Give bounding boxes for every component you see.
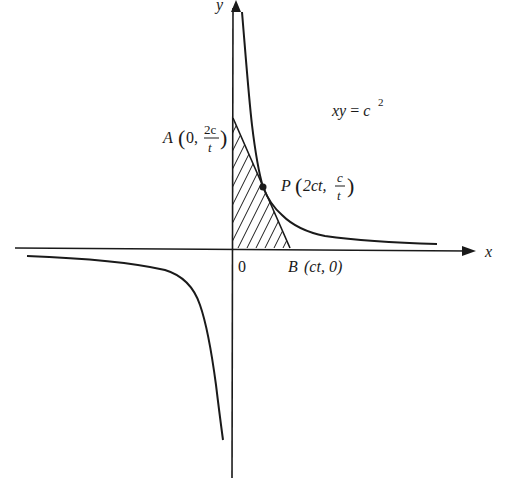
point-a-name: A (162, 129, 173, 146)
point-a-numerator: 2c (204, 122, 217, 137)
point-b-name: B (288, 258, 298, 275)
origin-label: 0 (238, 258, 246, 275)
point-a-label: A ( 0, 2c t ) (162, 122, 227, 155)
hatch-line (102, 110, 172, 250)
point-p-numerator: c (337, 170, 343, 185)
point-p-label: P ( 2ct, c t ) (280, 170, 354, 203)
point-p-close-paren: ) (347, 173, 354, 198)
x-axis-label: x (484, 243, 492, 260)
hatch-line (219, 110, 289, 250)
equation-lhs: xy (331, 102, 347, 120)
point-b-label: B (ct, 0) (288, 258, 342, 276)
hyperbola-upper-branch (242, 12, 437, 244)
point-p-name: P (280, 177, 291, 194)
point-a-close-paren: ) (220, 125, 227, 150)
equation-equals: = (346, 102, 363, 119)
point-b-coords: (ct, 0) (304, 258, 342, 276)
y-axis (232, 8, 233, 478)
y-axis-label: y (214, 0, 224, 14)
point-a-open-paren: ( (178, 125, 185, 150)
point-p-marker (260, 184, 267, 191)
equation-exponent: 2 (378, 96, 384, 108)
point-a-x: 0, (186, 129, 198, 146)
svg-text:xy = c: xy = c (331, 102, 370, 120)
equation-label: xy = c 2 (331, 96, 384, 120)
point-p-x: 2ct, (303, 177, 327, 194)
hatch-line (93, 110, 163, 250)
point-a-denominator: t (208, 140, 212, 155)
point-p-open-paren: ( (295, 173, 302, 198)
x-axis (15, 248, 468, 251)
equation-base: c (363, 102, 370, 119)
y-axis-arrow-icon (231, 0, 241, 12)
hyperbola-diagram: y x 0 xy = c 2 A ( 0, 2c t ) P ( 2ct, c … (0, 0, 507, 502)
point-p-denominator: t (337, 188, 341, 203)
hyperbola-lower-branch (27, 256, 223, 440)
x-axis-arrow-icon (462, 246, 476, 256)
